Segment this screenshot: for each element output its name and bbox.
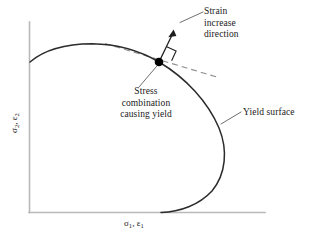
x-axis-stress-symbol: σ1 (124, 218, 132, 228)
x-axis-label: σ1, ε1 (124, 218, 144, 228)
yield-surface-curve (30, 44, 224, 213)
y-axis-stress-symbol: σ2 (9, 125, 19, 133)
leader-line-stress-combination (139, 67, 157, 88)
x-axis-label-separator: , (132, 218, 137, 228)
arrow-head-icon (168, 30, 176, 38)
annotation-yield-surface: Yield surface (243, 107, 295, 119)
leader-line-strain-direction (180, 12, 203, 23)
right-angle-icon (166, 47, 176, 61)
annotation-stress-combination-causing-yield: Stress combination causing yield (98, 86, 194, 121)
yield-point-marker (155, 58, 164, 67)
annotation-strain-increase-direction: Strain increase direction (204, 6, 239, 41)
y-axis-label: σ2, ε2 (9, 100, 19, 146)
leader-line-yield-surface (221, 112, 241, 124)
yield-surface-figure: Strain increase direction Stress combina… (0, 0, 321, 238)
y-axis-strain-symbol: ε2 (9, 113, 19, 120)
x-axis-strain-symbol: ε1 (137, 218, 144, 228)
